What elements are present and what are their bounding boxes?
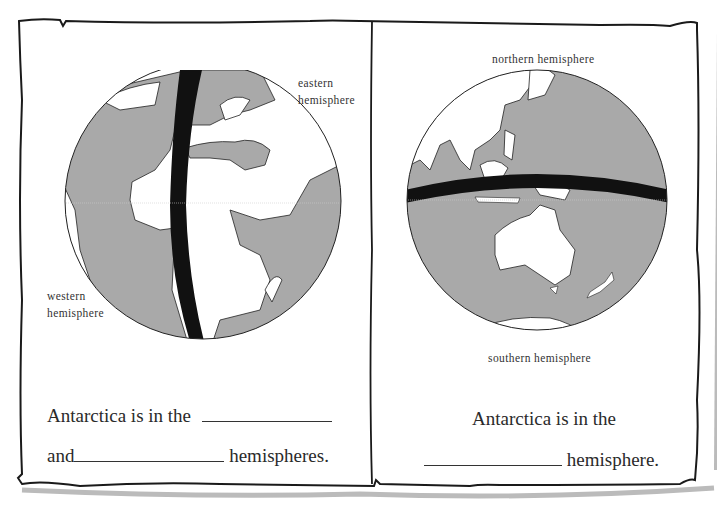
answer-blank-1[interactable]	[202, 407, 332, 422]
right-question-line-1: Antarctica is in the	[472, 408, 616, 430]
question-text: hemisphere.	[567, 449, 659, 470]
question-text: and	[47, 445, 74, 466]
label-line: hemisphere	[47, 305, 104, 322]
left-question-line-1: Antarctica is in the	[47, 405, 332, 427]
right-globe	[400, 60, 675, 350]
label-line: eastern	[298, 75, 355, 92]
question-text: hemispheres.	[229, 445, 329, 466]
western-hemisphere-label: western hemisphere	[47, 288, 104, 322]
question-text: Antarctica is in the	[47, 405, 191, 426]
answer-blank-2[interactable]	[74, 447, 224, 462]
left-question-line-2: and hemispheres.	[47, 445, 329, 467]
label-line: hemisphere	[298, 92, 355, 109]
eastern-hemisphere-label: eastern hemisphere	[298, 75, 355, 109]
right-question-line-2: hemisphere.	[424, 449, 659, 471]
answer-blank-3[interactable]	[424, 451, 562, 466]
southern-hemisphere-label: southern hemisphere	[488, 350, 591, 367]
label-line: western	[47, 288, 104, 305]
